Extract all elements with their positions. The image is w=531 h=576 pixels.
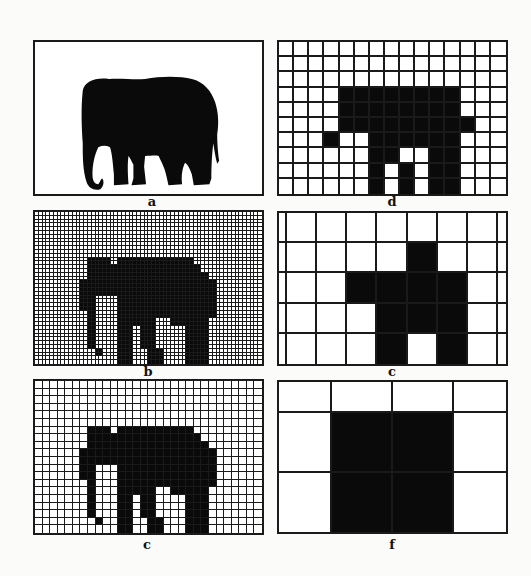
grid-cell — [96, 427, 104, 435]
grid-cell — [224, 396, 232, 404]
grid-cell — [118, 419, 126, 427]
grid-cell — [201, 381, 209, 389]
grid-cell — [217, 480, 225, 488]
grid-cell — [96, 495, 104, 503]
grid-cell — [254, 503, 262, 511]
grid-cell — [118, 472, 126, 480]
grid-cell — [141, 525, 149, 533]
grid-cell — [126, 480, 134, 488]
grid-cell — [355, 72, 370, 87]
grid-4x3 — [279, 382, 506, 532]
grid-cell — [96, 525, 104, 533]
grid-cell — [58, 449, 66, 457]
grid-cell — [65, 404, 73, 412]
grid-cell — [309, 72, 324, 87]
grid-cell — [35, 510, 43, 518]
grid-cell — [438, 334, 468, 364]
grid-cell — [491, 57, 506, 72]
grid-cell — [43, 404, 51, 412]
grid-cell — [133, 419, 141, 427]
grid-cell — [324, 133, 339, 148]
grid-cell — [332, 382, 393, 413]
grid-cell — [254, 449, 262, 457]
grid-cell — [179, 525, 187, 533]
grid-cell — [126, 525, 134, 533]
grid-cell — [385, 103, 400, 118]
grid-cell — [217, 487, 225, 495]
grid-cell — [217, 510, 225, 518]
grid-cell — [415, 103, 430, 118]
grid-cell — [88, 510, 96, 518]
grid-cell — [58, 411, 66, 419]
grid-cell — [141, 411, 149, 419]
grid-cell — [164, 449, 172, 457]
grid-cell — [88, 396, 96, 404]
grid-cell — [415, 57, 430, 72]
grid-cell — [148, 389, 156, 397]
grid-cell — [58, 518, 66, 526]
grid-cell — [118, 411, 126, 419]
grid-cell — [340, 133, 355, 148]
grid-cell — [73, 396, 81, 404]
grid-cell — [186, 480, 194, 488]
grid-cell — [217, 427, 225, 435]
panel-c-grid — [33, 379, 264, 535]
grid-cell — [393, 473, 454, 533]
grid-cell — [35, 449, 43, 457]
grid-cell — [385, 42, 400, 57]
grid-cell — [224, 503, 232, 511]
grid-cell — [111, 487, 119, 495]
grid-cell — [171, 510, 179, 518]
grid-cell — [232, 389, 240, 397]
grid-cell — [217, 518, 225, 526]
grid-cell — [194, 472, 202, 480]
grid-cell — [217, 525, 225, 533]
grid-cell — [171, 495, 179, 503]
grid-cell — [461, 42, 476, 57]
grid-cell — [294, 118, 309, 133]
grid-cell — [294, 88, 309, 103]
grid-cell — [186, 472, 194, 480]
grid-cell — [209, 427, 217, 435]
grid-cell — [73, 503, 81, 511]
grid-cell — [43, 465, 51, 473]
grid-cell — [50, 480, 58, 488]
grid-cell — [96, 381, 104, 389]
grid-cell — [148, 472, 156, 480]
grid-cell — [171, 518, 179, 526]
grid-cell — [324, 179, 339, 194]
grid-cell — [445, 57, 460, 72]
grid-cell — [224, 404, 232, 412]
grid-cell — [201, 404, 209, 412]
grid-cell — [88, 503, 96, 511]
grid-cell — [111, 442, 119, 450]
grid-cell — [179, 495, 187, 503]
grid-cell — [43, 487, 51, 495]
grid-cell — [186, 389, 194, 397]
grid-cell — [232, 510, 240, 518]
grid-cell — [370, 148, 385, 163]
grid-cell — [186, 510, 194, 518]
grid-cell — [209, 411, 217, 419]
grid-cell — [88, 389, 96, 397]
grid-cell — [80, 411, 88, 419]
grid-cell — [164, 411, 172, 419]
grid-cell — [370, 133, 385, 148]
panel-d-label: d — [377, 195, 407, 209]
grid-cell — [201, 396, 209, 404]
grid-cell — [58, 396, 66, 404]
grid-cell — [156, 457, 164, 465]
grid-cell — [111, 427, 119, 435]
grid-cell — [88, 518, 96, 526]
grid-cell — [58, 503, 66, 511]
grid-cell — [148, 480, 156, 488]
grid-cell — [194, 434, 202, 442]
grid-cell — [50, 411, 58, 419]
grid-cell — [476, 179, 491, 194]
grid-cell — [445, 148, 460, 163]
grid-cell — [201, 389, 209, 397]
grid-cell — [232, 427, 240, 435]
grid-cell — [118, 510, 126, 518]
grid-cell — [126, 442, 134, 450]
grid-cell — [224, 442, 232, 450]
